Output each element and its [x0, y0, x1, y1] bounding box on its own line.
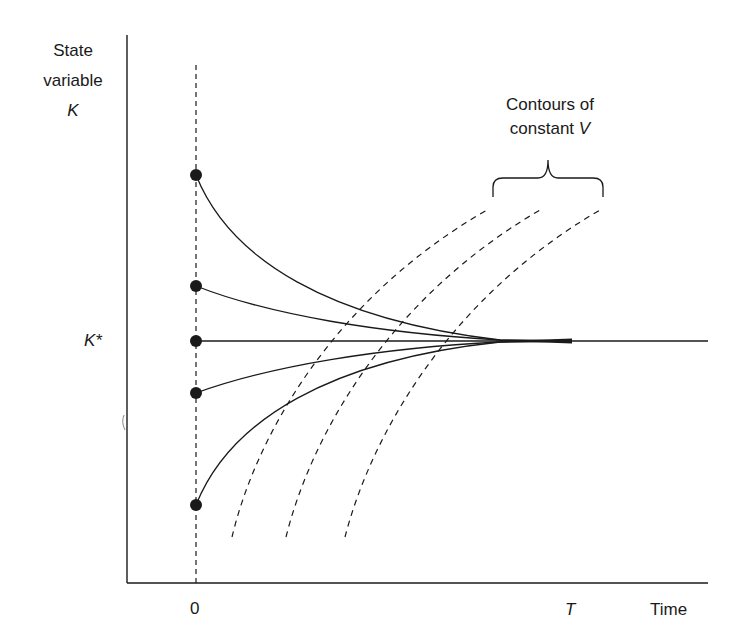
trajectory-high	[196, 175, 572, 341]
contour-v-2	[286, 210, 540, 537]
contour-brace	[493, 160, 603, 197]
trajectory-low	[196, 341, 572, 505]
contour-annotation-prefix: constant	[510, 119, 579, 138]
initial-point-high	[190, 169, 202, 181]
y-axis-label: State variable K	[28, 40, 118, 121]
x-axis-label: Time	[650, 599, 687, 620]
initial-point-mid-low	[190, 387, 202, 399]
trajectory-mid-high	[196, 286, 572, 341]
contour-annotation: Contours of constant V	[480, 94, 620, 139]
stray-mark	[123, 415, 125, 430]
trajectory-mid-low	[196, 341, 572, 393]
contour-annotation-line2: constant V	[480, 118, 620, 139]
y-axis-label-symbol: K	[28, 100, 118, 121]
initial-point-low	[190, 499, 202, 511]
initial-point-steady	[190, 335, 202, 347]
x-tick-zero: 0	[190, 598, 199, 619]
contour-annotation-line1: Contours of	[480, 94, 620, 115]
x-tick-T: T	[565, 599, 575, 620]
initial-point-mid-high	[190, 280, 202, 292]
contour-annotation-symbol: V	[579, 119, 590, 138]
y-axis-label-line1: State	[28, 40, 118, 61]
contour-v-1	[232, 210, 487, 537]
y-axis-label-line2: variable	[28, 70, 118, 91]
steady-state-label: K*	[84, 330, 102, 351]
convergence-band	[500, 339, 572, 344]
contour-v-3	[345, 210, 600, 537]
